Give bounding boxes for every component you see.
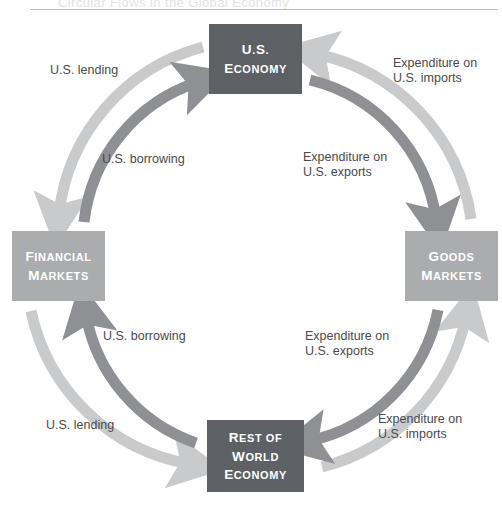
node-row-line-2: WORLD xyxy=(224,447,287,466)
label-expenditure-us-exports-bottom: Expenditure on U.S. exports xyxy=(305,329,389,360)
node-us-economy-line-2: ECONOMY xyxy=(224,59,287,78)
label-expenditure-us-exports-top: Expenditure on U.S. exports xyxy=(303,150,387,181)
label-us-borrowing-bottom: U.S. borrowing xyxy=(103,329,186,344)
node-financial-markets-line-2: MARKETS xyxy=(25,266,91,285)
label-us-lending-top: U.S. lending xyxy=(50,63,118,78)
label-expenditure-us-imports-top: Expenditure on U.S. imports xyxy=(393,56,477,87)
label-us-lending-bottom: U.S. lending xyxy=(46,418,114,433)
node-financial-markets-line-1: FINANCIAL xyxy=(25,247,91,266)
node-goods-markets-line-2: MARKETS xyxy=(421,266,482,285)
node-rest-of-world-economy[interactable]: REST OF WORLD ECONOMY xyxy=(207,420,304,492)
label-us-borrowing-top: U.S. borrowing xyxy=(102,152,185,167)
node-row-line-3: ECONOMY xyxy=(224,465,287,484)
node-us-economy[interactable]: U.S. ECONOMY xyxy=(209,24,302,94)
node-row-line-1: REST OF xyxy=(224,428,287,447)
node-financial-markets[interactable]: FINANCIAL MARKETS xyxy=(12,231,105,301)
node-goods-markets-line-1: GOODS xyxy=(421,247,482,266)
label-expenditure-us-imports-bottom: Expenditure on U.S. imports xyxy=(378,412,462,443)
diagram-canvas: Circular Flows in the Global Economy xyxy=(0,0,502,512)
node-us-economy-line-1: U.S. xyxy=(224,40,287,59)
node-goods-markets[interactable]: GOODS MARKETS xyxy=(405,231,498,301)
